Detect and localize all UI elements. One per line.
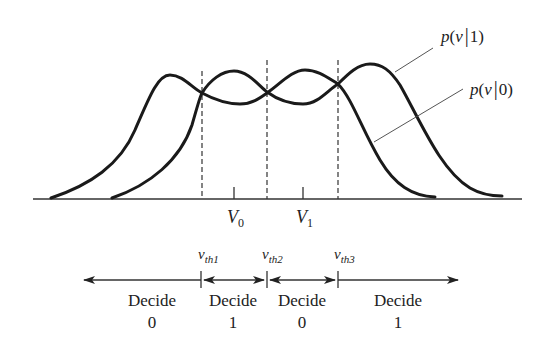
label-p-v-given-1: p(v|1) <box>440 24 484 47</box>
label-vth3: vth3 <box>334 246 355 265</box>
decision-word-4: Decide <box>374 291 422 310</box>
label-vth2: vth2 <box>262 246 283 265</box>
decision-threshold-diagram: p(v|1) p(v|0) V0 V1 vth1 vth2 vth3 Decid… <box>0 0 542 349</box>
label-v1: V1 <box>296 207 313 230</box>
decision-word-1: Decide <box>128 291 176 310</box>
label-vth1: vth1 <box>198 246 219 265</box>
leader-p0 <box>374 89 463 142</box>
decision-value-1: 0 <box>148 313 157 332</box>
label-p-v-given-0: p(v|0) <box>469 77 513 100</box>
decision-value-2: 1 <box>229 313 238 332</box>
curve-p-v-given-1 <box>112 64 502 198</box>
curve-p-v-given-0 <box>51 70 435 198</box>
label-v0: V0 <box>227 207 244 230</box>
decision-word-3: Decide <box>278 291 326 310</box>
decision-value-3: 0 <box>298 313 307 332</box>
decision-word-2: Decide <box>209 291 257 310</box>
leader-p1 <box>395 48 433 72</box>
decision-value-4: 1 <box>394 313 403 332</box>
